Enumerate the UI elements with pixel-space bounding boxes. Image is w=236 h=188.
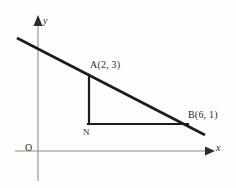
x-axis-label: x — [216, 143, 220, 153]
point-label-n: N — [83, 128, 90, 137]
geometry-figure: A(2, 3) B(6, 1) N O x y — [0, 0, 236, 188]
x-axis-arrowhead-icon — [205, 147, 215, 156]
point-label-b: B(6, 1) — [188, 110, 218, 120]
y-axis-arrowhead-icon — [34, 15, 43, 26]
figure-canvas — [0, 0, 236, 188]
point-label-a: A(2, 3) — [90, 60, 120, 70]
line-through-a-and-b — [17, 38, 205, 135]
y-axis-label: y — [43, 16, 47, 26]
origin-label: O — [25, 143, 32, 153]
